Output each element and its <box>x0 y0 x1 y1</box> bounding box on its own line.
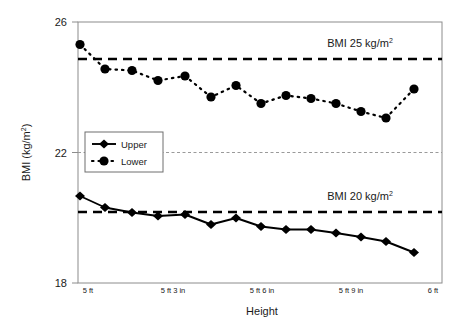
x-axis-ticks: 5 ft 5 ft 3 in 5 ft 6 in 5 ft 9 in 6 ft <box>83 286 439 295</box>
xtick-label-5ft3in: 5 ft 3 in <box>161 286 186 295</box>
legend-label-upper: Upper <box>121 139 147 150</box>
legend[interactable]: Upper Lower <box>85 132 163 172</box>
legend-label-lower: Lower <box>121 156 147 167</box>
ytick-label-22: 22 <box>55 147 67 159</box>
xtick-label-6ft: 6 ft <box>428 286 439 295</box>
annotation-bmi-20: BMI 20 kg/m2 <box>327 190 393 202</box>
xtick-label-5ft: 5 ft <box>83 286 94 295</box>
y-axis-title: BMI (kg/m2) <box>20 124 32 182</box>
annotation-bmi-25: BMI 25 kg/m2 <box>327 37 393 49</box>
chart-svg: BMI 25 kg/m2 BMI 20 kg/m2 26 22 18 BMI (… <box>0 0 463 330</box>
circle-marker-icon <box>99 156 108 165</box>
ytick-label-26: 26 <box>55 16 67 28</box>
ytick-label-18: 18 <box>55 277 67 289</box>
xtick-label-5ft9in: 5 ft 9 in <box>339 286 364 295</box>
bmi-height-chart: BMI 25 kg/m2 BMI 20 kg/m2 26 22 18 BMI (… <box>0 0 463 330</box>
xtick-label-5ft6in: 5 ft 6 in <box>250 286 275 295</box>
x-axis-title: Height <box>246 305 278 317</box>
y-axis-ticks: 26 22 18 <box>55 16 78 289</box>
